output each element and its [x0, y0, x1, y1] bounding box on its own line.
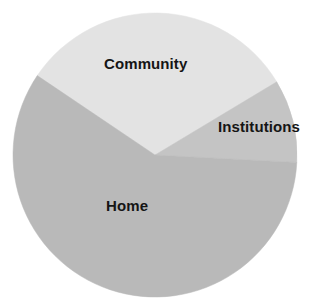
pie-chart: Community Institutions Home — [0, 0, 324, 308]
pie-label-community: Community — [104, 56, 187, 71]
pie-label-home: Home — [106, 198, 148, 213]
pie-label-institutions: Institutions — [218, 119, 300, 134]
pie-chart-canvas — [0, 0, 324, 308]
